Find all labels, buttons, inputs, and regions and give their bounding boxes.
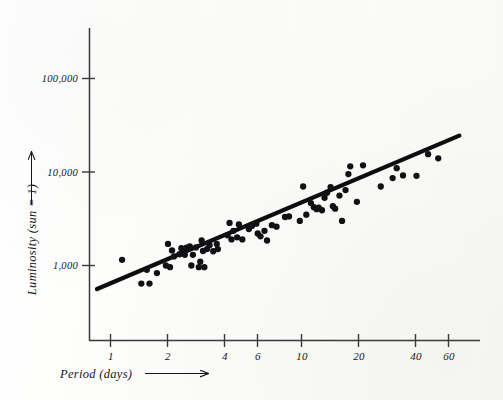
scatter-point bbox=[119, 257, 125, 263]
scatter-point bbox=[303, 211, 309, 217]
scatter-point bbox=[413, 173, 419, 179]
scatter-point bbox=[332, 206, 338, 212]
scatter-point bbox=[257, 233, 263, 239]
scatter-point bbox=[336, 192, 342, 198]
x-axis-title: Period (days) bbox=[60, 367, 132, 382]
scatter-point bbox=[239, 236, 245, 242]
scatter-point bbox=[264, 237, 270, 243]
scatter-point bbox=[230, 228, 236, 234]
scatter-point bbox=[319, 207, 325, 213]
x-tick-label-20: 20 bbox=[353, 350, 365, 362]
scatter-point bbox=[273, 224, 279, 230]
scatter-point bbox=[146, 280, 152, 286]
scatter-point bbox=[400, 172, 406, 178]
scatter-point bbox=[165, 241, 171, 247]
scatter-point bbox=[154, 270, 160, 276]
y-tick-marks bbox=[82, 79, 95, 266]
scatter-point bbox=[236, 221, 242, 227]
scatter-point bbox=[327, 184, 333, 190]
scatter-point bbox=[171, 253, 177, 259]
x-tick-label-4: 4 bbox=[222, 350, 228, 362]
scatter-point bbox=[261, 228, 267, 234]
scatter-points-layer bbox=[119, 151, 441, 287]
scatter-point bbox=[342, 187, 348, 193]
scatter-point bbox=[215, 246, 221, 252]
trend-line-group bbox=[97, 136, 459, 289]
scatter-point bbox=[389, 175, 395, 181]
scatter-point bbox=[198, 237, 204, 243]
scatter-point bbox=[300, 183, 306, 189]
scatter-point bbox=[201, 264, 207, 270]
x-tick-label-2: 2 bbox=[165, 350, 171, 362]
scatter-point bbox=[182, 252, 188, 258]
scatter-point bbox=[339, 218, 345, 224]
scatter-point bbox=[138, 280, 144, 286]
scatter-point bbox=[345, 171, 351, 177]
scatter-point bbox=[187, 243, 193, 249]
y-tick-label-100000: 100,000 bbox=[14, 73, 78, 84]
scatter-point bbox=[167, 264, 173, 270]
scatter-point bbox=[286, 213, 292, 219]
scatter-point bbox=[197, 258, 203, 264]
scatter-point bbox=[354, 199, 360, 205]
scatter-point bbox=[253, 221, 259, 227]
scatter-point bbox=[347, 163, 353, 169]
scatter-point bbox=[196, 264, 202, 270]
scatter-point bbox=[297, 218, 303, 224]
scatter-point bbox=[228, 236, 234, 242]
scatter-point bbox=[360, 162, 366, 168]
x-tick-label-1: 1 bbox=[108, 350, 114, 362]
x-tick-label-40: 40 bbox=[410, 350, 422, 362]
scatter-point bbox=[435, 155, 441, 161]
plot-canvas bbox=[0, 0, 503, 400]
scatter-point bbox=[324, 190, 330, 196]
scatter-point bbox=[378, 183, 384, 189]
scatter-point bbox=[188, 262, 194, 268]
best-fit-line bbox=[97, 136, 459, 289]
x-tick-label-6: 6 bbox=[255, 350, 261, 362]
x-tick-label-10: 10 bbox=[296, 350, 308, 362]
scatter-point bbox=[425, 151, 431, 157]
scatter-point bbox=[193, 244, 199, 250]
scatter-point bbox=[206, 242, 212, 248]
scatter-point bbox=[144, 267, 150, 273]
scatter-point bbox=[169, 247, 175, 253]
x-tick-label-60: 60 bbox=[443, 350, 455, 362]
scatter-point bbox=[226, 220, 232, 226]
axis-lines bbox=[89, 28, 480, 341]
period-luminosity-figure: 100,000 10,000 1,000 1 2 4 6 10 20 40 60… bbox=[0, 0, 503, 400]
scatter-point bbox=[394, 165, 400, 171]
y-axis-title: Luminosity (sun = 1) bbox=[25, 160, 40, 320]
scatter-point bbox=[190, 252, 196, 258]
